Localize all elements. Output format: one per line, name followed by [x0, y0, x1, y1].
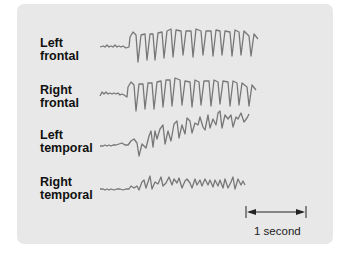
scale-bar-label: 1 second [254, 225, 301, 237]
trace-left-frontal [100, 29, 258, 62]
scale-bar [246, 206, 306, 218]
trace-right-frontal [100, 78, 256, 111]
trace-left-temporal [100, 111, 249, 156]
trace-right-temporal [100, 176, 245, 190]
arrow-left-icon [247, 209, 256, 215]
arrow-right-icon [296, 209, 305, 215]
